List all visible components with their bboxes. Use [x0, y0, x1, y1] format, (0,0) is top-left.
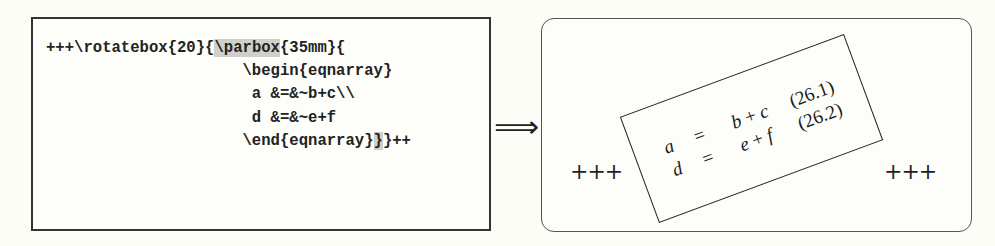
equation-relation: =	[699, 145, 717, 171]
source-text: \end{eqnarray}	[46, 132, 374, 150]
source-text: a &=&~b+c\\	[46, 85, 355, 103]
prefix-plus-text: +++	[570, 161, 622, 183]
source-text: {35mm}{	[280, 39, 346, 57]
highlighted-parbox-command: \parbox	[214, 39, 280, 57]
source-line-4: d &=&~e+f	[46, 107, 411, 130]
implies-arrow-icon: ⟹	[494, 112, 539, 142]
rhs-var-1: b	[728, 110, 744, 133]
rhs-operator: +	[742, 104, 759, 127]
source-line-2: \begin{eqnarray}	[46, 60, 411, 83]
rhs-operator: +	[749, 127, 766, 150]
rhs-var-1: e	[737, 133, 752, 156]
suffix-plus-text: +++	[884, 161, 936, 183]
latex-source-panel: +++\rotatebox{20}{\parbox{35mm}{ \begin{…	[31, 17, 491, 231]
rhs-var-2: c	[756, 100, 771, 123]
equation-lhs: d	[669, 156, 686, 182]
source-line-5: \end{eqnarray}}}++	[46, 130, 411, 153]
rhs-var-2: f	[763, 124, 775, 146]
source-line-1: +++\rotatebox{20}{\parbox{35mm}{	[46, 37, 411, 60]
latex-source-code: +++\rotatebox{20}{\parbox{35mm}{ \begin{…	[46, 37, 411, 153]
source-text: +++\rotatebox{20}{	[46, 39, 214, 57]
equation-lhs: a	[660, 134, 677, 160]
source-text: \begin{eqnarray}	[46, 62, 392, 80]
source-text: }++	[383, 132, 411, 150]
source-text: d &=&~e+f	[46, 109, 336, 127]
highlighted-closing-brace: }	[374, 132, 383, 150]
source-line-3: a &=&~b+c\\	[46, 83, 411, 106]
